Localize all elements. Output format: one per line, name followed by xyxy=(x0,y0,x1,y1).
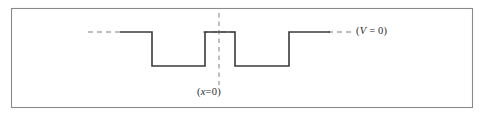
potential-zero-equals: = xyxy=(366,25,378,36)
figure-frame-border xyxy=(12,9,473,108)
potential-diagram xyxy=(0,0,487,117)
potential-zero-label: (V = 0) xyxy=(356,26,387,37)
potential-zero-close-paren: ) xyxy=(384,25,388,36)
origin-close-paren: ) xyxy=(217,86,221,97)
figure-container: (V = 0) (x=0) xyxy=(0,0,487,117)
origin-label: (x=0) xyxy=(197,87,221,98)
